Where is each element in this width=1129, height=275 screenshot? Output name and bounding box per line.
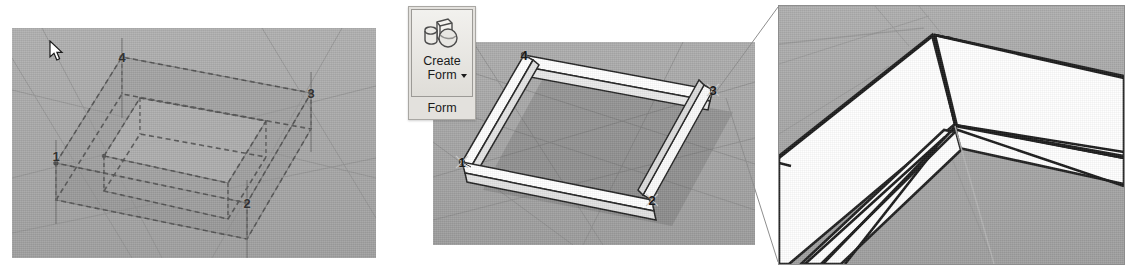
- create-form-button[interactable]: Create Form: [411, 9, 473, 97]
- chevron-down-icon[interactable]: [461, 74, 467, 78]
- create-form-label-line-1: Create: [412, 55, 472, 69]
- middle-vertex-label-1: 1: [458, 156, 465, 169]
- ribbon-group-label: Form: [409, 97, 475, 115]
- left-viewport-geometry: [12, 28, 376, 258]
- right-viewport-geometry: [779, 6, 1124, 264]
- middle-vertex-label-4: 4: [520, 49, 527, 62]
- left-vertex-label-1: 1: [52, 150, 59, 163]
- left-vertex-label-3: 3: [307, 87, 314, 100]
- left-vertex-label-2: 2: [243, 197, 250, 210]
- ribbon-group-form: Create Form Form: [408, 6, 476, 120]
- middle-vertex-label-3: 3: [709, 84, 716, 97]
- left-vertex-label-4: 4: [118, 51, 125, 64]
- 3d-solids-icon: [418, 13, 466, 55]
- panel-closed-profile-selection-view: 1 2 3 4: [12, 28, 376, 258]
- middle-vertex-label-2: 2: [648, 194, 655, 207]
- panel-created-form-solid-view: 1 2 3 4: [433, 42, 755, 245]
- panel-mitered-corner-detail-view: [778, 5, 1125, 265]
- middle-viewport-geometry: [433, 42, 755, 245]
